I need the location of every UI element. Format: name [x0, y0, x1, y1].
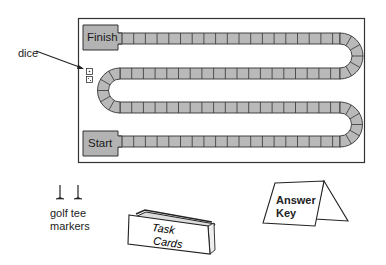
finish-label: Finish	[87, 32, 118, 44]
task-cards-label: Task Cards	[149, 221, 185, 251]
dice-pointer-arrow-icon	[36, 51, 84, 69]
golf-tee-label-line2: markers	[50, 220, 90, 233]
golf-tee-label-line1: golf tee	[50, 207, 90, 220]
answer-key-label-line1: Answer	[276, 194, 316, 207]
golf-tee-markers-icon	[56, 185, 82, 199]
answer-key-label: Answer Key	[276, 194, 316, 220]
golf-tee-markers-label: golf tee markers	[50, 207, 90, 233]
dice-label: dice	[18, 48, 38, 59]
start-label: Start	[88, 138, 112, 150]
answer-key-label-line2: Key	[276, 207, 316, 220]
